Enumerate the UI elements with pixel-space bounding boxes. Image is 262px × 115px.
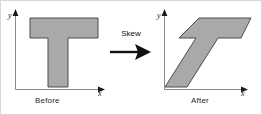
y-axis-label-after: y: [157, 11, 161, 20]
panel-before: y x Before: [1, 1, 111, 115]
skew-label: Skew: [107, 29, 155, 38]
y-axis-label-before: y: [8, 11, 12, 20]
x-axis-label-before: x: [98, 89, 102, 98]
panel-after: y x After: [153, 1, 262, 115]
caption-after: After: [191, 96, 209, 105]
t-shape-after: [165, 18, 251, 87]
skew-transition: Skew: [107, 29, 155, 69]
y-axis-arrowhead-before: [13, 9, 19, 16]
caption-before: Before: [35, 96, 60, 105]
x-axis-label-after: x: [241, 89, 245, 98]
t-shape-before: [30, 18, 98, 87]
right-arrow-icon: [107, 41, 155, 81]
y-axis-arrowhead-after: [162, 9, 168, 16]
skew-diagram: y x Before Skew y x After: [0, 0, 262, 115]
